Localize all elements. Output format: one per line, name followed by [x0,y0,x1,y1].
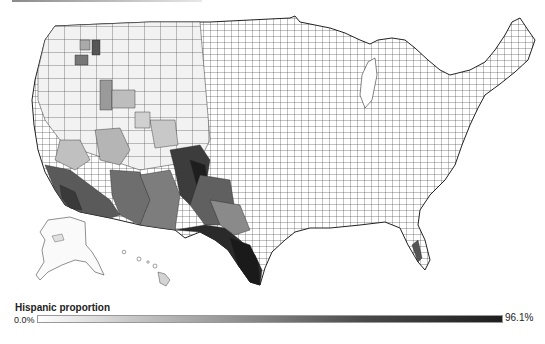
legend-title: Hispanic proportion [15,302,110,313]
legend-min-label: 0.0% [14,315,35,325]
contiguous-us [32,16,535,285]
us-county-map [0,0,545,300]
alaska [36,217,104,280]
legend-max-label: 96.1% [505,312,533,323]
legend-color-bar [37,315,503,323]
hawaii [122,250,170,286]
